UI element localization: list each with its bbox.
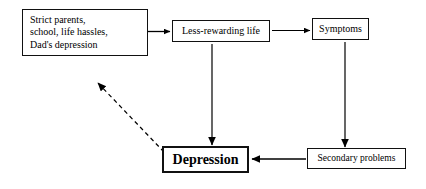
node-symptoms-label: Symptoms [319,23,362,35]
node-depression-label: Depression [173,151,239,168]
node-depression[interactable]: Depression [162,146,249,173]
diagram-canvas: Strict parents, school, life hassles, Da… [0,0,426,189]
node-secondary-problems-label: Secondary problems [318,153,396,165]
edge-depression-to-causes [98,83,164,152]
node-causes[interactable]: Strict parents, school, life hassles, Da… [22,9,148,56]
node-less-rewarding-life[interactable]: Less-rewarding life [172,20,270,42]
node-less-rewarding-life-label: Less-rewarding life [182,25,260,37]
node-causes-label: Strict parents, school, life hassles, Da… [30,14,108,51]
node-secondary-problems[interactable]: Secondary problems [307,148,406,169]
node-symptoms[interactable]: Symptoms [312,18,369,40]
